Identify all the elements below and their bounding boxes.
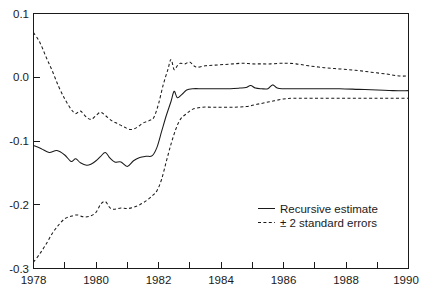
y-tick-label-3: -0.2 — [9, 199, 29, 211]
legend-label-standard-errors: ± 2 standard errors — [280, 217, 377, 229]
x-tick-label-0: 1978 — [21, 274, 47, 286]
y-tick-label-4: -0.3 — [9, 263, 29, 275]
y-tick-label-0: 0.1 — [13, 8, 29, 20]
y-tick-label-1: 0.0 — [13, 71, 29, 83]
x-tick-label-3: 1984 — [208, 274, 234, 286]
chart-canvas: 0.1 0.0 -0.1 -0.2 -0.3 1978 1980 1982 19… — [0, 0, 423, 296]
chart-figure: 0.1 0.0 -0.1 -0.2 -0.3 1978 1980 1982 19… — [0, 0, 423, 296]
legend-label-recursive-estimate: Recursive estimate — [280, 203, 378, 215]
x-tick-label-6: 1990 — [393, 274, 419, 286]
x-tick-label-5: 1988 — [333, 274, 359, 286]
x-tick-label-1: 1980 — [83, 274, 109, 286]
chart-background — [0, 0, 423, 296]
x-tick-label-2: 1982 — [146, 274, 172, 286]
y-tick-label-2: -0.1 — [9, 135, 29, 147]
x-tick-label-4: 1986 — [271, 274, 297, 286]
